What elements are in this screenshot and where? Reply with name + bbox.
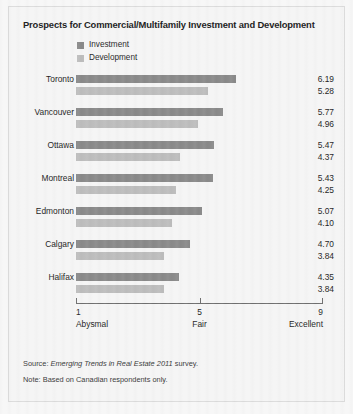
bar-value-label: 3.84 — [318, 251, 334, 261]
x-axis-tick — [200, 298, 201, 303]
chart-card: Prospects for Commercial/Multifamily Inv… — [8, 6, 345, 402]
respondents-note: Note: Based on Canadian respondents only… — [23, 375, 168, 384]
bar-development — [76, 153, 180, 161]
category-label: Calgary — [45, 239, 74, 249]
bar-value-label: 4.10 — [318, 218, 334, 228]
x-axis-tick — [76, 298, 77, 303]
bar-investment — [76, 207, 202, 215]
bar-value-label: 4.25 — [318, 185, 334, 195]
category-label: Ottawa — [47, 140, 74, 150]
bar-value-label: 5.07 — [318, 206, 334, 216]
bar-development — [76, 87, 208, 95]
bar-value-label: 3.84 — [318, 284, 334, 294]
bar-development — [76, 252, 164, 260]
x-axis-tick-caption: Abysmal — [76, 319, 108, 329]
bar-investment — [76, 75, 236, 83]
bar-investment — [76, 273, 179, 281]
bar-value-label: 4.37 — [318, 152, 334, 162]
bar-value-label: 5.28 — [318, 86, 334, 96]
bar-value-label: 4.35 — [318, 272, 334, 282]
source-suffix: survey. — [173, 359, 198, 368]
source-prefix: Source: — [23, 359, 51, 368]
source-title: Emerging Trends in Real Estate 2011 — [51, 359, 173, 368]
bar-development — [76, 285, 164, 293]
bar-development — [76, 219, 172, 227]
bar-development — [76, 120, 198, 128]
chart-screenshot: Prospects for Commercial/Multifamily Inv… — [0, 0, 353, 414]
bar-value-label: 5.43 — [318, 173, 334, 183]
chart-plot-area: Toronto6.195.28Vancouver5.774.96Ottawa5.… — [9, 7, 346, 403]
x-axis-line — [76, 303, 323, 304]
category-label: Montreal — [41, 173, 74, 183]
x-axis-tick-label: 1 — [76, 307, 81, 317]
bar-investment — [76, 240, 190, 248]
bar-value-label: 5.47 — [318, 140, 334, 150]
bar-value-label: 6.19 — [318, 74, 334, 84]
bar-investment — [76, 108, 223, 116]
bar-development — [76, 186, 176, 194]
bar-value-label: 4.70 — [318, 239, 334, 249]
category-label: Vancouver — [35, 107, 74, 117]
x-axis-tick-caption: Fair — [192, 319, 206, 329]
x-axis-tick-label: 9 — [318, 307, 323, 317]
source-note: Source: Emerging Trends in Real Estate 2… — [23, 359, 198, 368]
bar-value-label: 4.96 — [318, 119, 334, 129]
category-label: Edmonton — [36, 206, 74, 216]
bar-value-label: 5.77 — [318, 107, 334, 117]
x-axis-tick-caption: Excellent — [289, 319, 323, 329]
bar-investment — [76, 174, 213, 182]
x-axis-tick — [322, 298, 323, 303]
category-label: Halifax — [48, 272, 74, 282]
bar-investment — [76, 141, 214, 149]
x-axis-tick-label: 5 — [197, 307, 202, 317]
category-label: Toronto — [46, 74, 74, 84]
